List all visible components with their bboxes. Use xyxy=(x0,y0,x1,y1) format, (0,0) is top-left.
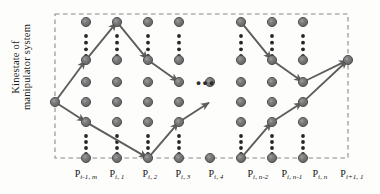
grid-node xyxy=(174,117,183,126)
x-axis-label-subscript: i, 2 xyxy=(148,173,157,181)
vertical-ellipsis-dot xyxy=(84,41,88,45)
x-axis-label-subscript: i+1, 1 xyxy=(346,173,364,181)
path-edge xyxy=(276,103,302,120)
grid-node xyxy=(143,17,152,26)
node-highlight xyxy=(269,119,272,122)
vertical-ellipsis-dot xyxy=(239,41,243,45)
vertical-ellipsis-dot xyxy=(270,140,274,144)
grid-node xyxy=(174,77,183,86)
node-highlight xyxy=(114,57,117,60)
path-edge xyxy=(244,123,271,154)
grid-node xyxy=(236,77,245,86)
node-circle xyxy=(112,153,121,162)
node-circle xyxy=(174,117,183,126)
node-circle xyxy=(112,117,121,126)
x-axis-label: Pi, 4 xyxy=(209,168,224,181)
grid-node xyxy=(236,153,245,162)
vertical-ellipsis-dot xyxy=(177,146,181,150)
node-highlight xyxy=(269,19,272,22)
grid-node xyxy=(81,17,90,26)
node-highlight xyxy=(300,19,303,22)
node-highlight xyxy=(269,99,272,102)
vertical-ellipsis-dot xyxy=(301,146,305,150)
grid-node xyxy=(81,117,90,126)
node-circle xyxy=(236,55,245,64)
grid-node xyxy=(267,55,276,64)
node-highlight xyxy=(238,99,241,102)
horizontal-ellipsis: ••• xyxy=(196,75,216,90)
grid-node xyxy=(143,153,152,162)
node-group xyxy=(50,17,352,162)
node-circle xyxy=(112,55,121,64)
grid-node xyxy=(298,55,307,64)
vertical-ellipsis-dot xyxy=(115,47,119,51)
node-circle xyxy=(112,77,121,86)
node-highlight xyxy=(238,79,241,82)
node-circle xyxy=(143,117,152,126)
x-axis-label-subscript: i, 4 xyxy=(214,173,223,181)
vertical-ellipsis-dot xyxy=(239,140,243,144)
vertical-ellipsis-dot xyxy=(84,34,88,38)
vertical-ellipsis-dot xyxy=(115,146,119,150)
grid-node xyxy=(174,55,183,64)
x-axis-label-subscript: i, 1 xyxy=(115,173,124,181)
node-circle xyxy=(236,97,245,106)
x-axis-label: Pi-1, m xyxy=(75,168,98,181)
vertical-ellipsis-dot xyxy=(177,34,181,38)
node-highlight xyxy=(176,79,179,82)
node-circle xyxy=(205,153,214,162)
node-highlight xyxy=(83,119,86,122)
node-circle xyxy=(81,17,90,26)
node-circle xyxy=(267,117,276,126)
node-highlight xyxy=(176,99,179,102)
vertical-ellipsis-dot xyxy=(270,34,274,38)
path-node xyxy=(50,97,59,106)
grid-node xyxy=(81,77,90,86)
vertical-ellipsis-group xyxy=(84,34,305,156)
x-axis-label: Pi, 2 xyxy=(143,168,158,181)
node-highlight xyxy=(176,57,179,60)
grid-node xyxy=(81,153,90,162)
node-highlight xyxy=(176,155,179,158)
vertical-ellipsis-dot xyxy=(177,140,181,144)
vertical-ellipsis-dot xyxy=(177,41,181,45)
vertical-ellipsis-dot xyxy=(84,134,88,138)
node-highlight xyxy=(145,79,148,82)
vertical-ellipsis-dot xyxy=(84,146,88,150)
node-highlight xyxy=(114,119,117,122)
grid-node xyxy=(298,117,307,126)
vertical-ellipsis-dot xyxy=(301,140,305,144)
node-highlight xyxy=(300,155,303,158)
node-highlight xyxy=(114,99,117,102)
vertical-ellipsis-dot xyxy=(239,146,243,150)
node-circle xyxy=(81,117,90,126)
vertical-ellipsis-dot xyxy=(146,47,150,51)
vertical-ellipsis-dot xyxy=(84,47,88,51)
grid-node xyxy=(236,97,245,106)
grid-node xyxy=(174,153,183,162)
grid-node xyxy=(81,97,90,106)
vertical-ellipsis-dot xyxy=(146,140,150,144)
node-circle xyxy=(298,153,307,162)
node-highlight xyxy=(114,19,117,22)
x-axis-label: Pi, 1 xyxy=(110,168,125,181)
vertical-ellipsis-dot xyxy=(301,41,305,45)
x-axis-label: Pi, n-2 xyxy=(248,168,269,181)
grid-node xyxy=(81,55,90,64)
node-circle xyxy=(81,97,90,106)
node-highlight xyxy=(238,119,241,122)
node-highlight xyxy=(176,119,179,122)
x-axis-label-subscript: i, n-2 xyxy=(253,173,268,181)
path-edge xyxy=(90,124,146,157)
vertical-ellipsis-dot xyxy=(239,47,243,51)
vertical-ellipsis-dot xyxy=(301,47,305,51)
node-highlight xyxy=(300,99,303,102)
node-circle xyxy=(143,55,152,64)
node-circle xyxy=(81,77,90,86)
grid-node xyxy=(112,55,121,64)
path-edge xyxy=(307,61,346,80)
x-axis-label-subscript: i, n xyxy=(318,173,327,181)
node-circle xyxy=(267,55,276,64)
node-circle xyxy=(267,97,276,106)
x-axis-label-subscript: i, n-1 xyxy=(287,173,302,181)
